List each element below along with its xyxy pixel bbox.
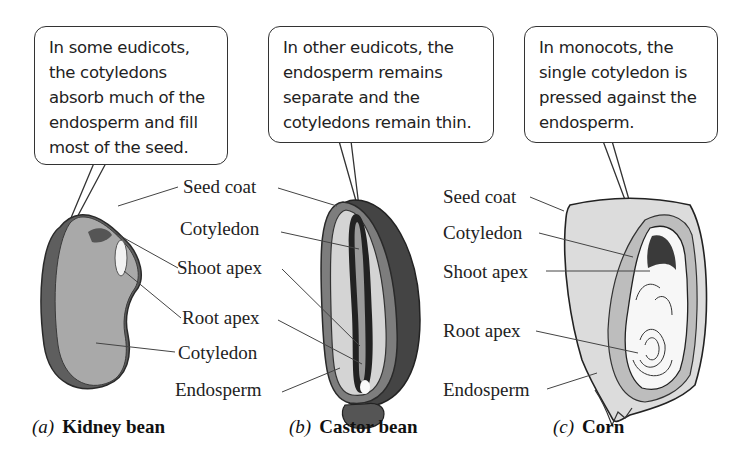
label-corn-root-apex: Root apex — [443, 321, 521, 341]
caption-letter: (c) — [553, 416, 574, 437]
caption-letter: (b) — [289, 416, 311, 437]
caption-kidney-bean: (a)Kidney bean — [32, 416, 165, 438]
caption-letter: (a) — [32, 416, 54, 437]
corn-kernel-illustration — [565, 198, 707, 425]
caption-name: Corn — [582, 416, 624, 437]
caption-corn: (c)Corn — [553, 416, 624, 438]
label-kidney-seed-coat: Seed coat — [183, 177, 256, 197]
label-corn-cotyledon: Cotyledon — [443, 223, 522, 243]
kidney-bean-illustration — [41, 215, 141, 389]
label-corn-shoot-apex: Shoot apex — [443, 262, 528, 282]
label-corn-seed-coat: Seed coat — [443, 187, 516, 207]
seed-structure-figure: In some eudicots, the cotyledons absorb … — [0, 0, 743, 457]
castor-bean-illustration — [321, 200, 420, 428]
label-kidney-cotyledon: Cotyledon — [178, 343, 257, 363]
caption-castor-bean: (b)Castor bean — [289, 416, 418, 438]
label-castor-endosperm: Endosperm — [175, 380, 262, 400]
label-kidney-root-apex: Root apex — [182, 308, 260, 328]
callout-castor-bean: In other eudicots, the endosperm remains… — [268, 26, 494, 143]
label-castor-cotyledon-upper: Cotyledon — [180, 219, 259, 239]
label-corn-endosperm: Endosperm — [443, 380, 530, 400]
callout-corn: In monocots, the single cotyledon is pre… — [524, 26, 718, 143]
label-kidney-shoot-apex: Shoot apex — [177, 258, 262, 278]
caption-name: Kidney bean — [62, 416, 165, 437]
caption-name: Castor bean — [319, 416, 417, 437]
callout-kidney-bean: In some eudicots, the cotyledons absorb … — [34, 26, 228, 165]
